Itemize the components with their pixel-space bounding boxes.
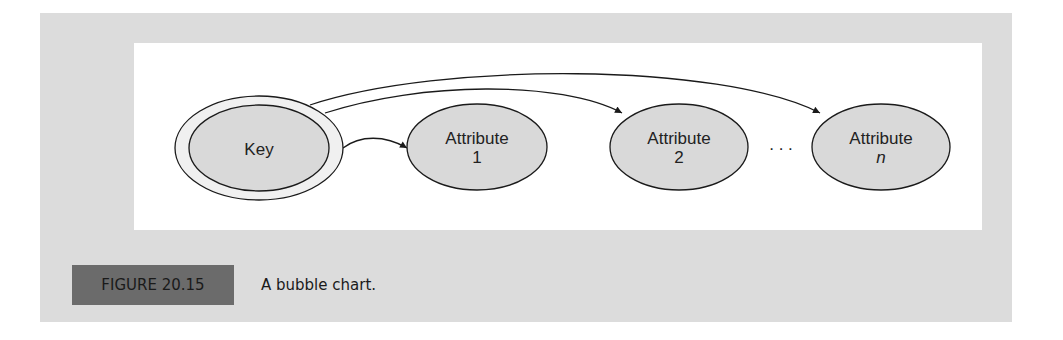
node-attribute-n-index: n: [876, 148, 885, 167]
edge-key-attrn: [310, 74, 820, 113]
figure-caption: A bubble chart.: [261, 265, 376, 305]
node-key-label: Key: [244, 140, 274, 159]
ellipsis-separator: . . .: [769, 135, 793, 154]
edge-key-attr1: [343, 138, 407, 148]
node-attribute-2-label: Attribute: [647, 129, 710, 148]
node-key: Key: [175, 96, 343, 200]
node-attribute-2-index: 2: [674, 148, 683, 167]
node-attribute-1-label: Attribute: [445, 129, 508, 148]
figure-number-label: FIGURE 20.15: [72, 265, 234, 305]
node-attribute-1: Attribute 1: [407, 104, 547, 190]
node-attribute-2: Attribute 2: [610, 104, 748, 190]
node-attribute-1-index: 1: [472, 148, 481, 167]
node-attribute-n-label: Attribute: [849, 129, 912, 148]
node-attribute-n: Attribute n: [812, 104, 950, 190]
